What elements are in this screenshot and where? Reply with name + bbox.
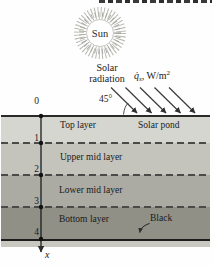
solar-pond-figure: Sun Solar radiation q̇s, W/m2 45° Top la… bbox=[0, 0, 214, 266]
axis-x-label: x bbox=[45, 249, 49, 260]
heat-flux-units: , W/m bbox=[142, 70, 167, 81]
cropped-figure-heading-remnant bbox=[99, 0, 212, 3]
dashed-boundary-3 bbox=[1, 206, 210, 208]
axis-tick-3: 3 bbox=[25, 196, 39, 206]
below-pond-strip bbox=[1, 241, 210, 247]
angle-arc bbox=[124, 103, 129, 114]
radiation-arrow-2 bbox=[126, 88, 152, 114]
solar-radiation-line2: radiation bbox=[84, 73, 130, 84]
radiation-arrow-3 bbox=[140, 88, 166, 114]
radiation-arrow-5 bbox=[169, 88, 195, 114]
axis-tick-4: 4 bbox=[25, 227, 39, 237]
solar-radiation-arrows bbox=[111, 88, 195, 114]
radiation-arrow-1 bbox=[111, 88, 137, 114]
axis-tick-2: 2 bbox=[25, 164, 39, 174]
black-label: Black bbox=[150, 213, 172, 224]
heat-flux-exponent: 2 bbox=[167, 69, 171, 77]
solar-pond-label: Solar pond bbox=[138, 120, 179, 131]
heat-flux-label: q̇s, W/m2 bbox=[134, 69, 170, 83]
sun-icon: Sun bbox=[71, 4, 129, 62]
radiation-arrow-4 bbox=[155, 88, 181, 114]
layer-label-bottom: Bottom layer bbox=[59, 214, 109, 225]
dashed-boundary-2 bbox=[1, 174, 210, 176]
layer-label-lower-mid: Lower mid layer bbox=[59, 185, 122, 196]
sun-label: Sun bbox=[92, 28, 109, 39]
solar-radiation-line1: Solar bbox=[84, 62, 130, 73]
layer-label-upper-mid: Upper mid layer bbox=[60, 152, 122, 163]
layer-label-top: Top layer bbox=[60, 120, 96, 131]
axis-tick-1: 1 bbox=[25, 133, 39, 143]
solar-radiation-label: Solar radiation bbox=[84, 62, 130, 84]
axis-tick-0: 0 bbox=[25, 96, 39, 106]
incidence-angle-label: 45° bbox=[99, 94, 112, 104]
